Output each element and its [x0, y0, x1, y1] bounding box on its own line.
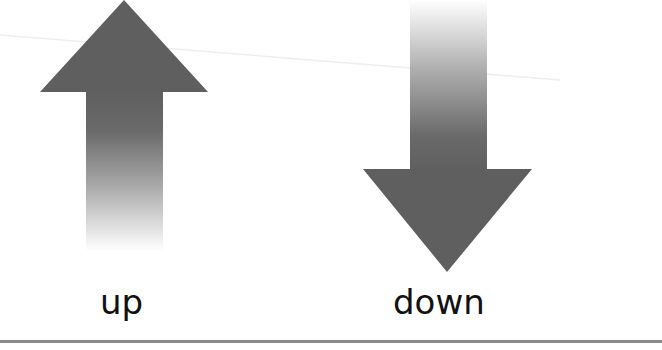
up-arrow-head	[40, 0, 208, 92]
up-arrow-shaft	[86, 91, 163, 251]
up-label: up	[100, 285, 143, 319]
down-arrow-head	[363, 169, 532, 272]
down-arrow-shaft	[410, 0, 487, 170]
up-arrow-icon	[40, 0, 208, 251]
down-arrow-icon	[363, 0, 532, 272]
divider-line	[0, 340, 662, 343]
down-label: down	[393, 285, 485, 319]
